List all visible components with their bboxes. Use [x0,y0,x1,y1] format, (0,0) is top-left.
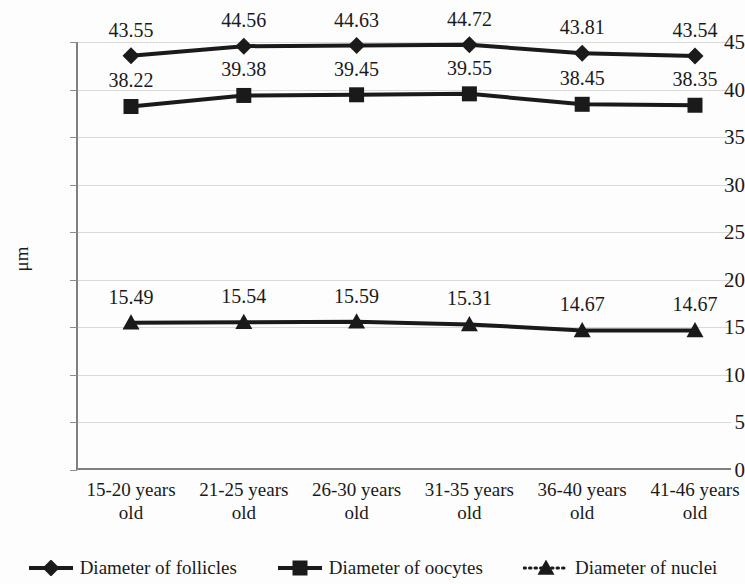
x-axis-category-label: 36-40 yearsold [526,478,638,524]
x-label-line: 15-20 years [75,478,187,501]
x-axis-category-label: 15-20 yearsold [75,478,187,524]
y-tick-label: 30 [689,175,745,196]
data-point-label: 38.35 [647,69,743,89]
data-point-label: 44.72 [421,9,517,29]
data-point-label: 43.54 [647,20,743,40]
x-axis-category-label: 26-30 yearsold [301,478,413,524]
legend-label: Diameter of oocytes [329,558,483,577]
gridline [78,280,731,281]
legend-label: Diameter of nuclei [575,558,717,577]
y-tick-mark [70,90,77,91]
y-tick-mark [70,327,77,328]
data-point-label: 15.59 [309,286,405,306]
x-label-line: 41-46 years [639,478,745,501]
data-point-label: 14.67 [534,294,630,314]
gridline [78,185,731,186]
gridline [78,327,731,328]
data-point-label: 38.22 [83,70,179,90]
y-tick-mark [70,232,77,233]
x-label-line: old [639,501,745,524]
gridline [78,422,731,423]
x-label-line: old [526,501,638,524]
y-axis-title: μm [11,239,33,279]
x-label-line: old [188,501,300,524]
y-tick-mark [70,42,77,43]
y-tick-mark [70,375,77,376]
gridline [78,232,731,233]
data-point-label: 44.56 [196,10,292,30]
x-label-line: 26-30 years [301,478,413,501]
data-point-label: 43.55 [83,20,179,40]
x-axis-category-label: 21-25 yearsold [188,478,300,524]
y-tick-label: 15 [689,317,745,338]
x-label-line: 21-25 years [188,478,300,501]
y-tick-mark [70,137,77,138]
legend-label: Diameter of follicles [80,558,237,577]
data-point-label: 43.81 [534,17,630,37]
x-axis-category-label: 31-35 yearsold [413,478,525,524]
data-point-label: 44.63 [309,10,405,30]
x-label-line: old [413,501,525,524]
x-label-line: old [75,501,187,524]
x-axis-category-label: 41-46 yearsold [639,478,745,524]
gridline [78,42,731,43]
data-point-label: 39.45 [309,59,405,79]
y-tick-label: 20 [689,270,745,291]
x-label-line: 36-40 years [526,478,638,501]
y-tick-label: 25 [689,222,745,243]
y-tick-label: 35 [689,127,745,148]
diamond-marker-icon [28,559,74,575]
y-tick-mark [70,280,77,281]
gridline [78,137,731,138]
data-point-label: 39.55 [421,58,517,78]
chart-legend: Diameter of folliclesDiameter of oocytes… [0,550,745,584]
y-tick-label: 10 [689,365,745,386]
data-point-label: 14.67 [647,294,743,314]
y-tick-label: 5 [689,412,745,433]
legend-item[interactable]: Diameter of nuclei [523,558,717,577]
y-tick-mark [70,422,77,423]
legend-item[interactable]: Diameter of oocytes [277,558,483,577]
legend-item[interactable]: Diameter of follicles [28,558,237,577]
data-point-label: 15.49 [83,287,179,307]
x-label-line: old [301,501,413,524]
y-tick-mark [70,185,77,186]
gridline [78,375,731,376]
square-marker-icon [277,559,323,575]
line-chart: μm 051015202530354045 43.5544.5644.6344.… [0,0,745,584]
data-point-label: 39.38 [196,59,292,79]
x-label-line: 31-35 years [413,478,525,501]
data-point-label: 15.54 [196,286,292,306]
data-point-label: 38.45 [534,68,630,88]
data-point-label: 15.31 [421,288,517,308]
triangle-marker-icon [523,559,569,575]
y-tick-mark [70,470,77,471]
plot-area [76,42,731,470]
